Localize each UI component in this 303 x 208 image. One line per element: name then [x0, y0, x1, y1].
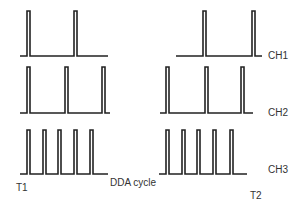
waveform-ch3-t1 [20, 130, 108, 174]
waveform-ch3-t2 [159, 130, 247, 174]
channel-label-ch2: CH2 [268, 108, 288, 118]
waveform-ch1-t1 [20, 11, 108, 56]
waveform-ch1-t2 [176, 11, 262, 56]
waveform-ch2-t1 [20, 67, 110, 113]
time-label-t2: T2 [250, 191, 262, 201]
waveform-ch2-t2 [160, 67, 253, 113]
time-label-t1: T1 [16, 183, 28, 193]
dda-cycle-label: DDA cycle [110, 178, 156, 188]
channel-label-ch1: CH1 [268, 51, 288, 61]
channel-label-ch3: CH3 [268, 165, 288, 175]
